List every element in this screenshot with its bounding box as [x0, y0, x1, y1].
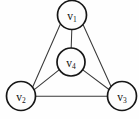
graph-figure: v1v4v2v3 — [0, 0, 139, 119]
graph-node-v4[interactable]: v4 — [57, 48, 85, 76]
graph-node-v2[interactable]: v2 — [7, 82, 36, 111]
graph-edge-v1-v3 — [83, 25, 111, 87]
nodes-layer: v1v4v2v3 — [7, 1, 137, 111]
graph-edge-v2-v4 — [35, 70, 60, 90]
graph-node-v1[interactable]: v1 — [58, 1, 87, 30]
graph-node-v3[interactable]: v3 — [108, 82, 137, 111]
graph-edge-v1-v4 — [71, 30, 72, 49]
graph-edge-v1-v2 — [33, 24, 61, 87]
graph-canvas: v1v4v2v3 — [0, 0, 139, 119]
